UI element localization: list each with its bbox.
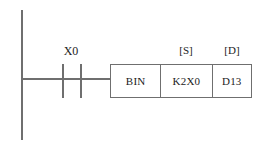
instruction-cell-operation: BIN [111,65,160,97]
contact-label-x0: X0 [50,44,92,58]
rung-wire-contact-to-box [80,78,111,80]
ladder-diagram-canvas: X0 [S] [D] BIN K2X0 D13 [0,0,267,149]
instruction-cell-source: K2X0 [160,65,211,97]
operand-tag-source: [S] [160,43,212,57]
contact-bar-right-icon [80,64,82,98]
instruction-box: BIN K2X0 D13 [110,64,252,98]
contact-bar-left-icon [62,64,64,98]
instruction-cell-destination: D13 [212,65,251,97]
operand-tag-destination: [D] [212,43,252,57]
rung-wire-rail-to-contact [21,78,63,80]
rung-wire-contact-gap [62,78,82,80]
left-power-rail [21,10,23,140]
